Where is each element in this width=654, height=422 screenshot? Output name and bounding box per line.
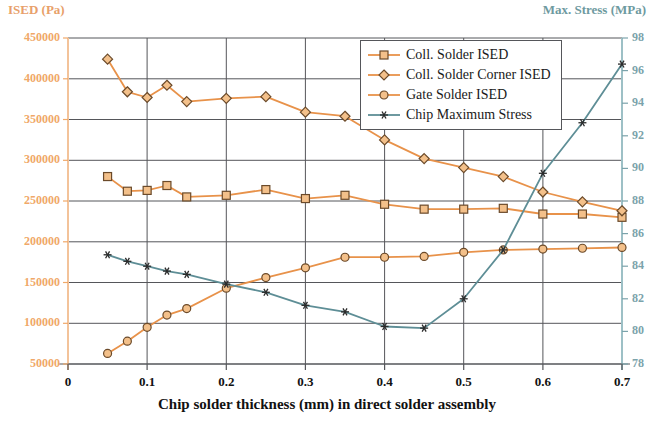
data-point-asterisk (262, 289, 270, 296)
data-point-diamond (577, 197, 587, 207)
left-axis-tick-label: 350000 (24, 112, 60, 127)
data-point-square (381, 200, 389, 208)
data-point-asterisk (341, 308, 349, 315)
legend-marker-circle-icon (367, 88, 401, 102)
data-point-square (262, 186, 270, 194)
right-axis-tick-label: 90 (632, 160, 644, 175)
chart-container: ISED (Pa) Max. Stress (MPa) 500001000001… (0, 0, 654, 422)
data-point-square (380, 51, 388, 59)
data-point-square (163, 182, 171, 190)
left-axis-tick-label: 450000 (24, 30, 60, 45)
data-point-square (341, 191, 349, 199)
data-point-square (499, 204, 507, 212)
data-point-asterisk (123, 258, 131, 265)
data-point-square (301, 195, 309, 203)
right-axis-tick-label: 78 (632, 356, 644, 371)
legend: Coll. Solder ISEDColl. Solder Corner ISE… (360, 40, 562, 130)
data-point-diamond (103, 54, 113, 64)
data-point-diamond (122, 87, 132, 97)
x-axis-tick-label: 0.1 (117, 374, 177, 390)
left-axis-tick-label: 400000 (24, 71, 60, 86)
right-axis-tick-label: 98 (632, 30, 644, 45)
data-point-diamond (380, 135, 390, 145)
left-axis-tick-label: 300000 (24, 152, 60, 167)
x-axis-tick-label: 0.2 (196, 374, 256, 390)
legend-item-label: Coll. Solder Corner ISED (406, 67, 551, 83)
data-point-square (123, 187, 131, 195)
right-axis-tick-label: 86 (632, 226, 644, 241)
x-axis-tick-label: 0.3 (275, 374, 335, 390)
data-point-square (420, 205, 428, 213)
data-point-circle (460, 248, 468, 256)
x-axis-tick-label: 0 (38, 374, 98, 390)
data-point-square (539, 210, 547, 218)
right-axis-tick-label: 80 (632, 323, 644, 338)
data-point-circle (143, 323, 151, 331)
left-axis-tick-label: 100000 (24, 315, 60, 330)
data-point-diamond (379, 70, 389, 80)
data-point-circle (301, 264, 309, 272)
data-point-square (222, 191, 230, 199)
data-point-circle (104, 349, 112, 357)
data-point-square (578, 210, 586, 218)
data-point-diamond (459, 163, 469, 173)
data-point-square (183, 193, 191, 201)
x-axis-tick-label: 0.6 (513, 374, 573, 390)
legend-item: Coll. Solder Corner ISED (367, 65, 551, 85)
data-point-diamond (419, 154, 429, 164)
legend-item: Chip Maximum Stress (367, 105, 551, 125)
data-point-asterisk (163, 268, 171, 275)
data-point-diamond (261, 92, 271, 102)
legend-marker-asterisk-icon (367, 108, 401, 122)
legend-item-label: Gate Solder ISED (406, 87, 507, 103)
right-axis-tick-label: 84 (632, 258, 644, 273)
data-point-circle (262, 274, 270, 282)
right-axis-tick-label: 88 (632, 193, 644, 208)
x-axis-tick-label: 0.7 (592, 374, 652, 390)
data-point-diamond (142, 92, 152, 102)
left-axis-tick-label: 50000 (30, 356, 60, 371)
data-point-circle (539, 245, 547, 253)
data-point-asterisk (183, 271, 191, 278)
right-axis-tick-label: 82 (632, 291, 644, 306)
data-point-diamond (221, 93, 231, 103)
data-point-asterisk (380, 112, 388, 119)
right-axis-tick-label: 92 (632, 128, 644, 143)
data-point-circle (163, 311, 171, 319)
data-point-circle (381, 253, 389, 261)
legend-item: Gate Solder ISED (367, 85, 551, 105)
legend-marker-square-icon (367, 48, 401, 62)
data-point-square (143, 186, 151, 194)
series-line-2 (108, 248, 622, 354)
data-point-square (104, 173, 112, 181)
legend-item-label: Chip Maximum Stress (406, 107, 532, 123)
data-point-diamond (538, 187, 548, 197)
data-point-diamond (498, 172, 508, 182)
left-axis-tick-label: 150000 (24, 275, 60, 290)
data-point-diamond (300, 107, 310, 117)
x-axis-tick-label: 0.5 (434, 374, 494, 390)
data-point-circle (578, 244, 586, 252)
legend-item: Coll. Solder ISED (367, 45, 551, 65)
left-axis-tick-label: 200000 (24, 234, 60, 249)
data-point-circle (123, 337, 131, 345)
right-axis-tick-label: 96 (632, 63, 644, 78)
right-axis-tick-label: 94 (632, 95, 644, 110)
data-point-circle (183, 305, 191, 313)
data-point-circle (341, 253, 349, 261)
data-point-circle (420, 252, 428, 260)
left-axis-tick-label: 250000 (24, 193, 60, 208)
data-point-square (460, 205, 468, 213)
x-axis-title: Chip solder thickness (mm) in direct sol… (0, 396, 654, 413)
legend-marker-diamond-icon (367, 68, 401, 82)
data-point-asterisk (104, 251, 112, 258)
legend-item-label: Coll. Solder ISED (406, 47, 508, 63)
x-axis-tick-label: 0.4 (355, 374, 415, 390)
data-point-circle (380, 91, 388, 99)
data-point-circle (618, 243, 626, 251)
